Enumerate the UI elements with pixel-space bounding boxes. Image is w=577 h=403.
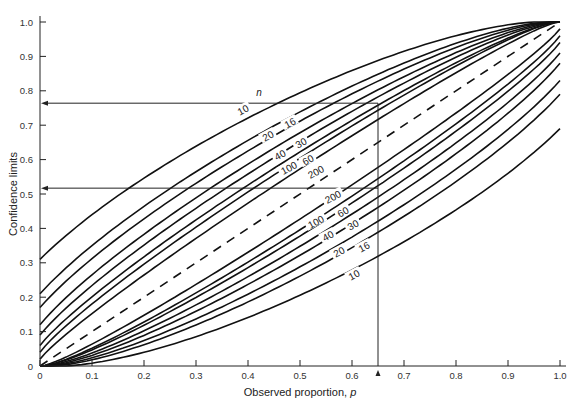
upper-limit-curve-n30 — [40, 22, 560, 325]
lower-limit-curve-n40 — [40, 53, 560, 366]
upper-limit-curve-n100 — [40, 22, 560, 352]
y-tick-label: 1.0 — [20, 17, 33, 28]
y-tick-label: 0.8 — [20, 85, 33, 96]
y-tick-label: 0.7 — [20, 120, 33, 131]
upper-limit-curve-n200 — [40, 22, 560, 359]
y-tick-label: 0.3 — [20, 257, 33, 268]
x-tick-label: 0 — [37, 370, 42, 381]
axes: 00.10.20.30.40.50.60.70.80.91.000.10.20.… — [20, 16, 567, 381]
lower-limit-curve-n60 — [40, 43, 560, 366]
lower-limit-curve-n30 — [40, 63, 560, 366]
y-tick-label: 0.4 — [20, 223, 33, 234]
x-tick-label: 0.3 — [189, 370, 202, 381]
upper-arrowhead-icon — [41, 101, 48, 106]
x-tick-label: 1.0 — [553, 370, 566, 381]
upper-limit-curve-n40 — [40, 22, 560, 335]
x-tick-label: 0.5 — [293, 370, 306, 381]
diagonal-reference-line — [40, 22, 560, 366]
lower-limit-curve-n200 — [40, 29, 560, 366]
y-tick-label: 0 — [28, 361, 33, 372]
y-tick-label: 0.1 — [20, 326, 33, 337]
x-tick-label: 0.2 — [137, 370, 150, 381]
y-tick-label: 0.5 — [20, 189, 33, 200]
x-tick-label: 0.9 — [501, 370, 514, 381]
y-tick-label: 0.6 — [20, 154, 33, 165]
x-tick-label: 0.7 — [397, 370, 410, 381]
x-tick-label: 0.1 — [85, 370, 98, 381]
confidence-limits-chart: n101016162020303040406060100100200200 00… — [0, 0, 577, 403]
x-tick-label: 0.4 — [241, 370, 254, 381]
n-legend-header: n — [256, 87, 262, 98]
y-tick-label: 0.2 — [20, 292, 33, 303]
x-marker-arrowhead-icon — [376, 370, 381, 376]
lower-limit-curve-n100 — [40, 36, 560, 366]
y-axis-title: Confidence limits — [7, 152, 19, 236]
dashed-diagonal — [40, 22, 560, 366]
x-axis-title: Observed proportion, p — [244, 386, 357, 398]
y-tick-label: 0.9 — [20, 51, 33, 62]
x-tick-label: 0.8 — [449, 370, 462, 381]
x-tick-label: 0.6 — [345, 370, 358, 381]
lower-arrowhead-icon — [41, 186, 48, 191]
upper-limit-curve-n60 — [40, 22, 560, 345]
